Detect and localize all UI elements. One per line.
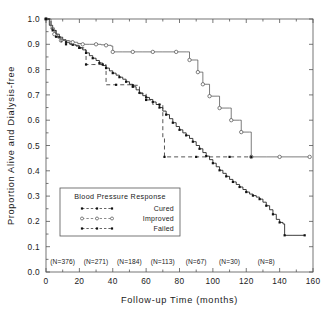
- censor-marker: [158, 103, 160, 105]
- legend-marker-symbol: [81, 217, 84, 220]
- y-tick-label: 0.5: [28, 141, 41, 151]
- censor-marker: [192, 141, 194, 143]
- x-tick-label: 100: [206, 276, 221, 286]
- series-failed: [45, 18, 252, 158]
- censor-marker: [225, 175, 227, 177]
- legend-label-failed: Failed: [153, 225, 174, 232]
- censor-marker: [272, 213, 274, 215]
- censor-marker: [55, 36, 57, 38]
- x-axis-label: Follow-up Time (months): [121, 295, 238, 305]
- censor-marker: [196, 70, 199, 73]
- censor-marker: [132, 84, 134, 86]
- censor-marker: [188, 58, 191, 61]
- censor-marker: [45, 18, 47, 20]
- censor-marker: [228, 156, 230, 158]
- x-tick-label: 60: [141, 276, 151, 286]
- legend-label-cured: Cured: [154, 205, 174, 212]
- survival-chart: 0204060801001201401600.00.10.20.30.40.50…: [0, 0, 334, 316]
- censor-marker: [52, 29, 54, 31]
- curve-failed: [46, 19, 251, 157]
- chart-canvas: 0204060801001201401600.00.10.20.30.40.50…: [0, 0, 334, 316]
- censor-marker: [172, 122, 174, 124]
- x-tick-label: 80: [175, 276, 185, 286]
- y-tick-label: 0.1: [28, 242, 41, 252]
- x-tick-label: 0: [44, 276, 49, 286]
- censor-marker: [178, 129, 180, 131]
- censor-marker: [65, 43, 67, 45]
- censor-marker: [158, 106, 160, 108]
- censor-marker: [218, 169, 220, 171]
- x-tick-label: 20: [74, 276, 84, 286]
- at-risk-label: (N=30): [219, 258, 240, 266]
- censor-marker: [259, 198, 261, 200]
- legend-marker-symbol: [111, 207, 113, 209]
- censor-marker: [78, 47, 80, 49]
- y-tick-label: 0.0: [28, 267, 41, 277]
- legend-marker-symbol: [96, 217, 99, 220]
- at-risk-label: (N=184): [117, 258, 142, 266]
- legend-label-improved: Improved: [143, 215, 174, 223]
- series-improved: [44, 17, 311, 158]
- censor-marker: [218, 106, 221, 109]
- y-tick-label: 0.4: [28, 166, 41, 176]
- x-tick-label: 120: [239, 276, 254, 286]
- at-risk-label: (N=271): [84, 258, 109, 266]
- censor-marker: [102, 63, 104, 65]
- legend-title: Blood Pressure Response: [74, 192, 166, 201]
- at-risk-label: (N=8): [258, 258, 275, 266]
- censor-marker: [304, 234, 306, 236]
- censor-marker: [278, 155, 281, 158]
- legend-marker-symbol: [111, 227, 113, 229]
- censor-marker: [112, 72, 114, 74]
- censor-marker: [98, 62, 100, 64]
- censor-marker: [212, 162, 214, 164]
- y-tick-label: 0.3: [28, 191, 41, 201]
- censor-marker: [185, 134, 187, 136]
- censor-marker: [195, 156, 197, 158]
- y-tick-label: 0.9: [28, 39, 41, 49]
- at-risk-label: (N=67): [186, 258, 207, 266]
- censor-marker: [208, 94, 211, 97]
- censor-marker: [174, 50, 177, 53]
- censor-marker: [92, 57, 94, 59]
- legend-marker-symbol: [81, 207, 83, 209]
- y-tick-label: 1.0: [28, 14, 41, 24]
- censor-marker: [118, 76, 120, 78]
- censor-marker: [201, 83, 204, 86]
- censor-marker: [252, 194, 254, 196]
- y-axis-label: Proportion Alive and Dialysis-free: [6, 66, 16, 225]
- y-tick-label: 0.2: [28, 216, 41, 226]
- y-tick-label: 0.7: [28, 90, 41, 100]
- censor-marker: [104, 44, 107, 47]
- censor-marker: [232, 181, 234, 183]
- censor-marker: [165, 114, 167, 116]
- censor-marker: [238, 186, 240, 188]
- censor-marker: [81, 43, 84, 46]
- legend-marker-symbol: [111, 217, 114, 220]
- y-tick-label: 0.8: [28, 65, 41, 75]
- censor-marker: [230, 119, 233, 122]
- censor-marker: [279, 221, 281, 223]
- censor-marker: [240, 130, 243, 133]
- censor-marker: [94, 43, 97, 46]
- legend-marker-symbol: [96, 227, 98, 229]
- censor-marker: [115, 84, 117, 86]
- legend-marker-symbol: [96, 207, 98, 209]
- y-tick-label: 0.6: [28, 115, 41, 125]
- censor-marker: [265, 205, 267, 207]
- censor-marker: [163, 156, 165, 158]
- curve-improved: [46, 19, 310, 157]
- censor-marker: [71, 41, 74, 44]
- censor-marker: [53, 32, 56, 35]
- at-risk-label: (N=113): [151, 258, 175, 266]
- at-risk-label: (N=376): [50, 258, 75, 266]
- censor-marker: [111, 50, 114, 53]
- x-tick-label: 140: [272, 276, 287, 286]
- censor-marker: [125, 81, 127, 83]
- legend-marker-symbol: [81, 227, 83, 229]
- censor-marker: [145, 99, 147, 101]
- censor-marker: [308, 155, 311, 158]
- censor-marker: [85, 63, 87, 65]
- censor-marker: [131, 50, 134, 53]
- censor-marker: [250, 156, 252, 158]
